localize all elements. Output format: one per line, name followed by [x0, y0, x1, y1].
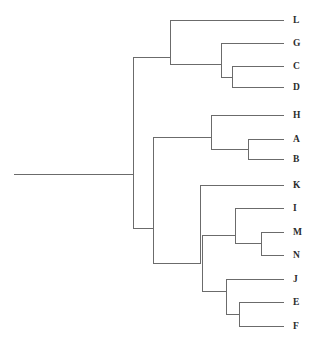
connector-branches: [14, 20, 284, 326]
leaf-label-J: J: [293, 274, 298, 284]
leaf-label-C: C: [293, 61, 300, 71]
leaf-label-A: A: [293, 134, 300, 144]
dendrogram-svg: LGCDHABKIMNJEF: [0, 0, 318, 343]
leaf-label-L: L: [293, 15, 299, 25]
leaf-label-N: N: [293, 250, 300, 260]
leaf-label-K: K: [293, 180, 301, 190]
leaf-label-D: D: [293, 82, 300, 92]
dendrogram-figure: LGCDHABKIMNJEF: [0, 0, 318, 343]
leaf-label-E: E: [293, 297, 299, 307]
leaf-label-M: M: [293, 227, 302, 237]
leaf-label-G: G: [293, 38, 301, 48]
leaf-label-H: H: [293, 110, 301, 120]
leaf-label-B: B: [293, 154, 300, 164]
leaf-label-group: LGCDHABKIMNJEF: [293, 15, 302, 331]
leaf-label-F: F: [293, 321, 299, 331]
leaf-label-I: I: [293, 203, 297, 213]
